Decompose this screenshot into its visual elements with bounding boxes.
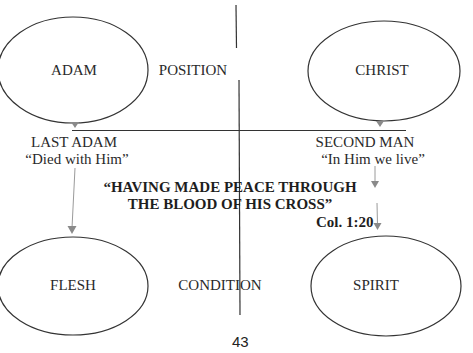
christ-label: CHRIST bbox=[355, 62, 408, 79]
condition-label: CONDITION bbox=[178, 277, 261, 294]
died-with-him-label: “Died with Him” bbox=[25, 151, 128, 168]
position-label: POSITION bbox=[159, 62, 227, 79]
diagram-lines bbox=[0, 0, 473, 353]
vertical-divider-top bbox=[236, 5, 237, 48]
right-arrowhead-2 bbox=[374, 223, 382, 230]
in-him-we-live-label: “In Him we live” bbox=[321, 151, 425, 168]
adam-arrowhead bbox=[71, 122, 79, 128]
last-adam-label: LAST ADAM bbox=[31, 134, 117, 151]
quote-reference: Col. 1:20 bbox=[316, 213, 374, 231]
right-arrowhead-1 bbox=[371, 181, 379, 188]
spirit-label: SPIRIT bbox=[353, 277, 399, 294]
flesh-label: FLESH bbox=[50, 277, 96, 294]
quote-line-2: THE BLOOD OF HIS CROSS” bbox=[128, 195, 333, 213]
adam-label: ADAM bbox=[51, 62, 97, 79]
quote-line-1: “HAVING MADE PEACE THROUGH bbox=[103, 178, 356, 196]
left-arrowhead bbox=[68, 226, 77, 234]
christ-arrowhead bbox=[376, 121, 384, 127]
second-man-label: SECOND MAN bbox=[316, 134, 415, 151]
page-number: 43 bbox=[232, 333, 249, 350]
